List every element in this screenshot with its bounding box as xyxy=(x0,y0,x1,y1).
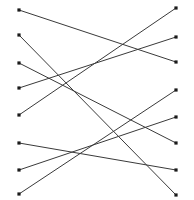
right-node-r8 xyxy=(174,193,177,196)
right-node-r2 xyxy=(174,35,177,38)
left-node-l2 xyxy=(17,33,20,36)
right-node-r5 xyxy=(174,115,177,118)
edge-l2-r8 xyxy=(19,35,176,195)
edge-l4-r2 xyxy=(19,37,176,88)
edge-l3-r6 xyxy=(19,63,176,143)
right-node-r7 xyxy=(174,168,177,171)
left-node-l3 xyxy=(17,61,20,64)
edge-l8-r4 xyxy=(19,90,176,194)
left-node-l8 xyxy=(17,192,20,195)
left-node-l1 xyxy=(17,8,20,11)
right-node-r3 xyxy=(174,60,177,63)
left-node-l6 xyxy=(17,141,20,144)
left-node-l7 xyxy=(17,168,20,171)
edge-l7-r5 xyxy=(19,117,176,170)
left-node-l5 xyxy=(17,113,20,116)
right-node-r6 xyxy=(174,141,177,144)
right-node-r4 xyxy=(174,88,177,91)
bipartite-line-diagram xyxy=(0,0,194,200)
diagram-canvas xyxy=(0,0,194,200)
left-node-l4 xyxy=(17,86,20,89)
nodes-group xyxy=(17,6,177,196)
edge-l1-r3 xyxy=(19,10,176,62)
edge-l6-r7 xyxy=(19,143,176,170)
edge-l5-r1 xyxy=(19,8,176,115)
right-node-r1 xyxy=(174,6,177,9)
edges-group xyxy=(19,8,176,195)
